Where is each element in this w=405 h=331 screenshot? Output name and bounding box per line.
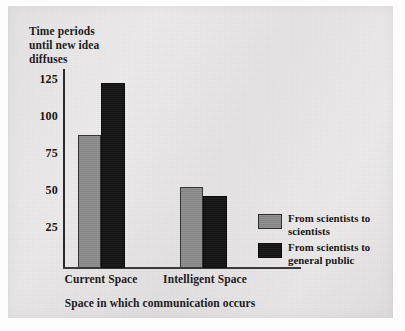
chart-legend: From scientists to scientists From scien…: [258, 212, 390, 270]
y-tick-label-125: 125: [24, 72, 58, 87]
chart-page: Time periods until new idea diffuses 125…: [0, 0, 405, 331]
bar-current-space-general-public: [101, 83, 125, 268]
x-category-label-intelligent-space: Intelligent Space: [152, 273, 258, 285]
y-axis-title-line-1: Time periods: [29, 24, 159, 38]
legend-item-scientists-to-scientists: From scientists to scientists: [258, 212, 390, 237]
y-axis-line: [63, 69, 65, 269]
legend-label-line-1: From scientists to: [288, 212, 370, 225]
y-axis-title-line-2: until new idea: [29, 38, 159, 52]
legend-label-scientists-to-scientists: From scientists to scientists: [288, 212, 370, 237]
black-swatch-icon: [258, 243, 282, 258]
y-axis-title-line-3: diffuses: [29, 52, 159, 66]
y-axis-title: Time periods until new idea diffuses: [29, 24, 159, 67]
bar-intelligent-space-general-public: [203, 196, 227, 268]
bar-current-space-scientists: [78, 135, 101, 268]
gray-swatch-icon: [258, 214, 282, 229]
y-tick-label-25: 25: [24, 220, 58, 235]
x-axis-title: Space in which communication occurs: [40, 297, 280, 309]
x-category-label-current-space: Current Space: [51, 273, 151, 285]
legend-item-scientists-to-general-public: From scientists to general public: [258, 241, 390, 266]
legend-label-scientists-to-general-public: From scientists to general public: [288, 241, 370, 266]
y-tick-label-100: 100: [24, 109, 58, 124]
bar-intelligent-space-scientists: [180, 187, 203, 268]
y-tick-label-50: 50: [24, 183, 58, 198]
plot-area: Time periods until new idea diffuses 125…: [0, 0, 405, 331]
legend-label-line-2: scientists: [288, 225, 370, 238]
legend-label-line-1: From scientists to: [288, 241, 370, 254]
legend-label-line-2: general public: [288, 254, 370, 267]
y-tick-label-75: 75: [24, 146, 58, 161]
